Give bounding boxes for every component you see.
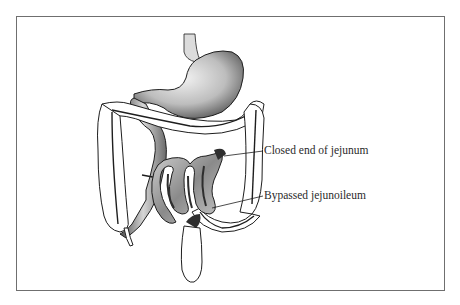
stomach [134,51,244,118]
esophagus [184,34,200,62]
label-closed-end-of-jejunum: Closed end of jejunum [264,145,368,157]
label-bypassed-jejunoileum: Bypassed jejunoileum [264,190,366,202]
bypassed-jejunoileum [152,149,226,228]
anatomy-illustration [0,0,460,305]
rectum [181,226,202,282]
